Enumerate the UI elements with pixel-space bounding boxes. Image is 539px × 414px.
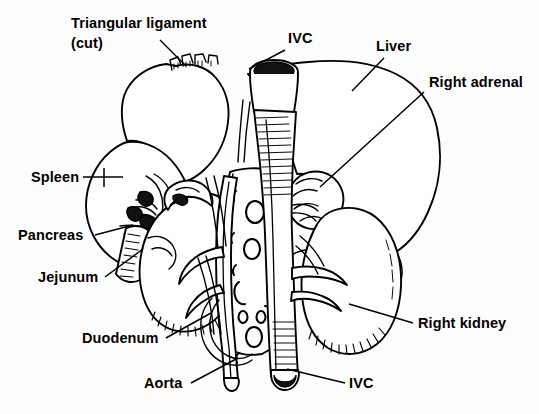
label-spleen: Spleen [31,169,79,185]
label-liver: Liver [376,38,411,54]
label-right-kidney: Right kidney [418,315,506,331]
label-pancreas: Pancreas [18,227,83,243]
label-duodenum: Duodenum [82,330,159,346]
anatomy-illustration: Triangular ligament (cut) IVC Liver Righ… [0,0,539,414]
leader-triangular-ligament [160,40,186,66]
label-ivc-top: IVC [288,30,313,46]
label-ivc-bottom: IVC [349,375,374,391]
label-triangular-ligament-line2: (cut) [71,35,103,51]
ivc-cut-superior [250,60,298,112]
label-jejunum: Jejunum [38,269,98,285]
label-triangular-ligament: Triangular ligament [71,15,207,31]
anatomical-figure: Triangular ligament (cut) IVC Liver Righ… [0,0,539,414]
label-right-adrenal: Right adrenal [429,74,523,90]
ivc-cut-inferior [271,370,299,390]
label-aorta: Aorta [144,375,183,391]
